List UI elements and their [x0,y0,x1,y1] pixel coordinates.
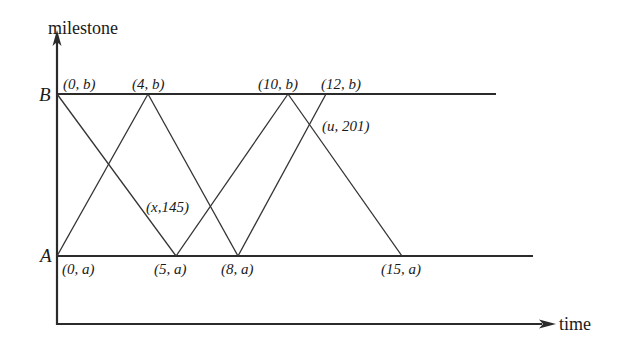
point-label-15a: (15, a) [381,261,421,278]
point-label-0a: (0, a) [62,261,95,278]
intersection-label-u201: (u, 201) [322,118,370,135]
point-label-10b: (10, b) [258,76,298,93]
point-label-8a: (8, a) [221,261,254,278]
segment-0b-5a [57,94,176,256]
endpoint-a-label: A [38,245,52,266]
point-label-4b: (4, b) [132,76,165,93]
point-label-12b: (12, b) [321,76,361,93]
segment-0a-4b [57,94,148,256]
time-axis-label: time [559,314,591,334]
axes [53,30,557,329]
milestone-lines [57,94,533,256]
milestone-axis-label: milestone [48,18,118,38]
point-label-0b: (0, b) [63,76,96,93]
endpoint-b-label: B [39,84,51,105]
segment-8a-12b [238,94,326,256]
intersection-label-x145: (x,145) [146,199,189,216]
travel-diagram: milestone time B A (0, b) (4, b) (10, b)… [0,0,623,350]
point-label-5a: (5, a) [154,261,187,278]
